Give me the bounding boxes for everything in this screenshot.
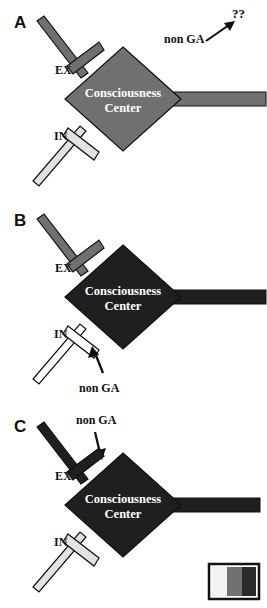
grayscale-legend [209,564,259,599]
inhibitory-label-a: IN [54,129,68,143]
panel-c: C non GA EX IN Consciousness Center [0,396,267,608]
panel-a-graphic: A EX IN Consciousness Center non GA [0,0,267,200]
excitatory-label-c: EX [55,469,72,483]
non-ga-label-b: non GA [79,381,120,395]
center-label-line1-a: Consciousness [85,86,162,100]
panel-b: B EX IN Consciousness Center non GA [0,198,267,398]
panel-letter-a: A [14,13,26,32]
legend-band-light [212,567,227,596]
inhibitory-label-c: IN [54,535,68,549]
excitatory-label-a: EX [55,63,72,77]
center-label-line2-b: Center [105,299,142,313]
center-label-line2-a: Center [105,101,142,115]
non-ga-arrow-a [206,21,235,41]
panel-a: A EX IN Consciousness Center non GA [0,0,267,200]
excitatory-label-b: EX [55,261,72,275]
question-marks-a: ?? [232,6,245,21]
legend-band-dark [242,567,256,596]
center-label-line1-c: Consciousness [85,492,162,506]
panel-c-graphic: C non GA EX IN Consciousness Center [0,396,267,608]
figure-root: A EX IN Consciousness Center non GA [0,0,267,608]
panel-letter-b: B [14,211,26,230]
legend-band-medium [227,567,242,596]
center-label-line1-b: Consciousness [85,284,162,298]
non-ga-label-c: non GA [76,413,117,427]
center-label-line2-c: Center [105,507,142,521]
non-ga-label-a: non GA [164,32,205,46]
inhibitory-label-b: IN [54,327,68,341]
panel-letter-c: C [14,417,26,436]
panel-b-graphic: B EX IN Consciousness Center non GA [0,198,267,398]
